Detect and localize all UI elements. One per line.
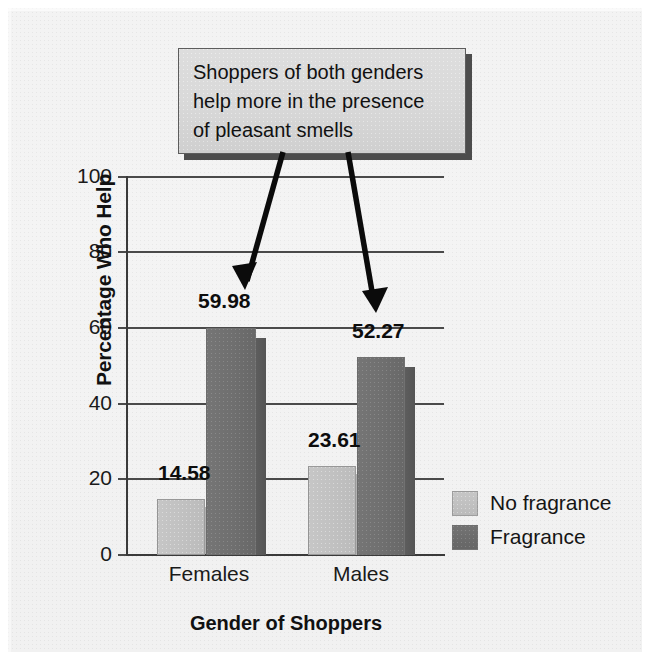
gridline-80	[126, 251, 444, 253]
bar-females-fragrance[interactable]	[206, 328, 256, 555]
legend: No fragrance Fragrance	[452, 486, 611, 554]
paper-edge-highlight-top	[8, 8, 642, 11]
legend-item-no-fragrance[interactable]: No fragrance	[452, 486, 611, 520]
legend-item-fragrance[interactable]: Fragrance	[452, 520, 611, 554]
paper-edge-highlight-left	[8, 8, 11, 652]
bar-females-no-fragrance[interactable]	[157, 499, 205, 555]
data-label-males-no-fragrance: 23.61	[308, 428, 361, 452]
callout-line-3: of pleasant smells	[193, 116, 465, 145]
annotation-callout-box: Shoppers of both genders help more in th…	[178, 48, 466, 154]
x-axis-title: Gender of Shoppers	[126, 612, 446, 635]
legend-swatch-no-fragrance	[452, 491, 478, 516]
bar-males-no-fragrance[interactable]	[308, 466, 356, 555]
gridline-100	[126, 176, 444, 178]
y-tick-label-20: 20	[52, 466, 112, 490]
legend-label-no-fragrance: No fragrance	[490, 491, 611, 515]
callout-line-1: Shoppers of both genders	[193, 58, 465, 87]
legend-swatch-fragrance	[452, 525, 478, 550]
y-tick-20: 20	[48, 466, 112, 490]
x-tick-label-females: Females	[139, 562, 279, 586]
y-tick-0: 0	[48, 542, 112, 566]
legend-label-fragrance: Fragrance	[490, 525, 586, 549]
y-axis-line	[126, 176, 128, 556]
x-tick-label-males: Males	[291, 562, 431, 586]
data-label-females-no-fragrance: 14.58	[158, 461, 211, 485]
callout-line-2: help more in the presence	[193, 87, 465, 116]
data-label-females-fragrance: 59.98	[198, 289, 251, 313]
y-tick-label-0: 0	[52, 542, 112, 566]
data-label-males-fragrance: 52.27	[352, 319, 405, 343]
bar-side-females-fragrance	[255, 338, 266, 555]
bar-males-fragrance[interactable]	[357, 357, 405, 555]
y-axis-title: Percentage Who Help	[92, 130, 116, 430]
bar-side-males-fragrance	[404, 367, 415, 555]
chart-figure: 100 80 60 40 20 0 14.58 59.98 23.61 52.2…	[0, 0, 650, 660]
